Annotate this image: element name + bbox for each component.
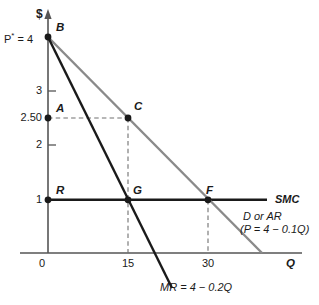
point-label-A: A <box>56 103 64 115</box>
mr-curve <box>48 37 172 288</box>
y-axis <box>44 9 51 253</box>
point-B <box>45 34 52 41</box>
point-label-F: F <box>206 185 213 197</box>
smc-curve-label: SMC <box>275 194 299 205</box>
point-R <box>45 196 52 203</box>
demand-curve-equation: (P = 4 − 0.1Q) <box>240 224 309 235</box>
y-tick-label-2: 2 <box>20 139 42 150</box>
y-tick-label-pstar: P* = 4 <box>4 32 33 45</box>
point-A <box>45 115 52 122</box>
y-tick-label-250: 2.50 <box>2 112 42 123</box>
y-tick-label-1: 1 <box>20 194 42 205</box>
y-tick-label-3: 3 <box>20 85 42 96</box>
pstar-eq: = 4 <box>18 33 34 45</box>
point-G <box>125 196 132 203</box>
mr-curve-equation: MR = 4 − 0.2Q <box>160 282 232 293</box>
point-label-B: B <box>56 22 64 34</box>
x-tick-label-0: 0 <box>32 258 52 269</box>
pstar-asterisk: * <box>11 31 14 40</box>
point-label-R: R <box>56 185 64 197</box>
point-label-C: C <box>134 101 142 113</box>
economics-monopoly-chart: $ Q P* = 4 3 2.50 2 1 0 15 30 B A C R G … <box>0 0 319 305</box>
x-tick-label-30: 30 <box>197 258 219 269</box>
point-label-G: G <box>133 185 142 197</box>
demand-curve-label: D or AR <box>243 211 282 222</box>
point-F <box>205 196 212 203</box>
point-C <box>125 115 132 122</box>
dashed-guides <box>48 118 208 253</box>
y-axis-label-dollar: $ <box>36 8 43 20</box>
demand-curve <box>48 37 262 253</box>
x-axis-label-q: Q <box>286 258 295 270</box>
x-tick-label-15: 15 <box>117 258 139 269</box>
